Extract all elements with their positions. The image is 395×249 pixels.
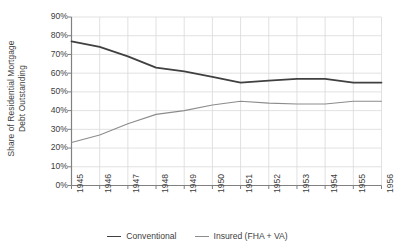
x-axis-tick-label: 1954 (329, 174, 339, 193)
legend-line-icon (195, 236, 209, 237)
y-axis-tick-label: 50% (51, 87, 68, 96)
x-axis-tick-label: 1947 (131, 174, 141, 193)
data-line-2 (72, 101, 382, 142)
y-axis-tick-label: 30% (51, 125, 68, 134)
y-axis-tick-label: 60% (51, 69, 68, 78)
x-axis-tick-label: 1945 (75, 174, 85, 193)
y-axis-title: Share of Residential Mortgage Debt Outst… (0, 0, 32, 196)
x-axis-tick-label: 1956 (385, 174, 395, 193)
legend-line-icon (107, 236, 121, 237)
y-axis-tick-label: 10% (51, 162, 68, 171)
y-axis-tick-label: 20% (51, 143, 68, 152)
legend-item: Insured (FHA + VA) (195, 231, 288, 241)
y-axis-tick-label: 80% (51, 31, 68, 40)
x-axis-tick-label: 1952 (272, 174, 282, 193)
legend-item: Conventional (107, 231, 176, 241)
y-axis-tick-label: 70% (51, 50, 68, 59)
y-axis-title-line2: Debt Outstanding (16, 40, 27, 156)
x-axis-tick-label: 1948 (160, 174, 170, 193)
data-line-1 (72, 41, 382, 82)
x-axis-tick-label: 1955 (357, 174, 367, 193)
y-axis-title-line1: Share of Residential Mortgage (6, 40, 16, 156)
legend-label: Conventional (126, 231, 176, 241)
y-axis-tick-label: 90% (51, 12, 68, 21)
y-axis-tick-label: 40% (51, 106, 68, 115)
y-axis-tick-labels: 0%10%20%30%40%50%60%70%80%90% (30, 0, 68, 196)
legend-label: Insured (FHA + VA) (214, 231, 288, 241)
x-axis-tick-label: 1950 (216, 174, 226, 193)
x-axis-tick-label: 1946 (103, 174, 113, 193)
gridlines (72, 17, 382, 186)
x-axis-tick-label: 1949 (188, 174, 198, 193)
x-axis-tick-labels: 1945194619471948194919501951195219531954… (0, 188, 395, 234)
x-axis-tick-label: 1953 (301, 174, 311, 193)
chart-container: Share of Residential Mortgage Debt Outst… (0, 0, 395, 249)
x-axis-tick-label: 1951 (244, 174, 254, 193)
chart-legend: ConventionalInsured (FHA + VA) (0, 231, 395, 241)
